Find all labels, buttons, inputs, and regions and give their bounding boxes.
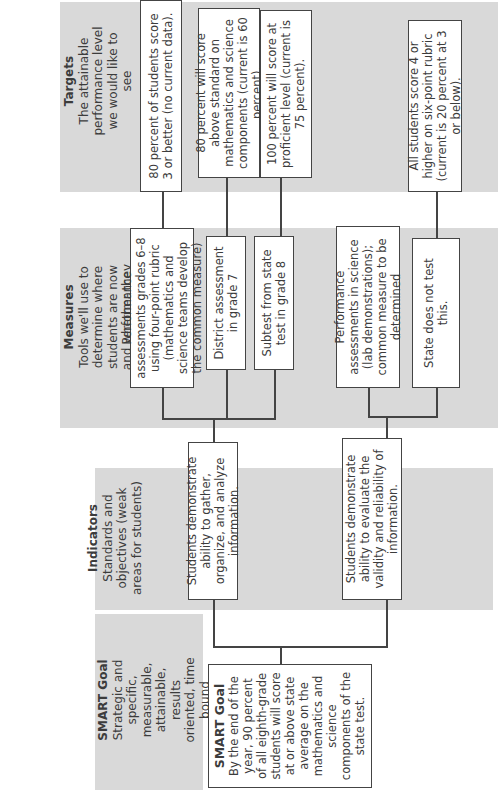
header-targets: Targets The attainable performance level… — [62, 6, 135, 156]
header-smart-goal: SMART Goal Strategic and specific, measu… — [96, 612, 212, 788]
connector-ind2-bus — [368, 417, 436, 419]
connector-m1-t1 — [162, 192, 164, 228]
connector-m5-stub — [436, 388, 438, 418]
connector-ind1-stub — [213, 600, 215, 648]
target-box-4: All students score 4 or higher on six-po… — [408, 20, 462, 192]
measure-text-3: Subtest from state test in grade 8 — [260, 243, 288, 363]
connector-m2-stub — [226, 370, 228, 420]
measure-box-3: Subtest from state test in grade 8 — [254, 236, 294, 370]
smart-goal-box-title: SMART Goal — [213, 684, 227, 769]
smart-goal-box: SMART Goal By the end of the year, 90 pe… — [208, 664, 372, 788]
smart-goal-diagram: SMART Goal Strategic and specific, measu… — [0, 0, 498, 796]
measure-text-4: Performance assessments in science (lab … — [333, 233, 403, 381]
header-indicators-title: Indicators — [86, 468, 101, 608]
header-indicators-desc: Standards and objectives (weak areas for… — [101, 472, 145, 604]
connector-m1-stub — [162, 388, 164, 420]
connector-m3-stub — [274, 370, 276, 420]
connector-goal-bus — [213, 647, 387, 649]
band-indicators — [95, 468, 493, 610]
connector-ind1-bus — [162, 419, 274, 421]
target-text-1: 80 percent of students score 3 or better… — [147, 9, 175, 183]
measure-box-5: State does not test this. — [412, 238, 460, 388]
target-text-4: All students score 4 or higher on six-po… — [407, 27, 463, 185]
header-targets-title: Targets — [62, 6, 77, 156]
measure-text-1: Performance assessments grades 6–8 using… — [120, 235, 204, 381]
indicator-text-1: Students demonstrate ability to gather, … — [185, 449, 241, 593]
indicator-box-2: Students demonstrate ability to evaluate… — [342, 438, 402, 600]
connector-ind2-stub — [386, 600, 388, 648]
connector-m5-t4 — [436, 192, 438, 238]
header-measures-title: Measures — [62, 242, 77, 392]
target-box-1: 80 percent of students score 3 or better… — [140, 0, 182, 192]
connector-m4-stub — [368, 388, 370, 418]
target-box-3: 100 percent will score at proficient lev… — [260, 10, 312, 178]
header-smart-goal-title: SMART Goal — [96, 612, 111, 788]
measure-text-2: District assessment in grade 7 — [212, 243, 240, 363]
measure-box-2: District assessment in grade 7 — [206, 236, 246, 370]
measure-text-5: State does not test this. — [422, 245, 450, 381]
target-text-3: 100 percent will score at proficient lev… — [265, 17, 307, 171]
indicator-box-1: Students demonstrate ability to gather, … — [188, 442, 238, 600]
measure-box-1: Performance assessments grades 6–8 using… — [130, 228, 194, 388]
connector-ind1-stem — [213, 420, 215, 442]
connector-ind2-stem — [386, 418, 388, 438]
smart-goal-box-text: By the end of the year, 90 percent of al… — [227, 671, 367, 781]
header-smart-goal-desc: Strategic and specific, measurable, atta… — [111, 652, 213, 748]
connector-m3-t3 — [280, 178, 282, 236]
header-targets-desc: The attainable performance level we woul… — [77, 22, 135, 140]
measure-box-4: Performance assessments in science (lab … — [336, 226, 400, 388]
target-box-2: 80 percent will score above standard on … — [198, 8, 260, 178]
connector-m2-t2 — [226, 178, 228, 236]
indicator-text-2: Students demonstrate ability to evaluate… — [344, 445, 400, 593]
header-indicators: Indicators Standards and objectives (wea… — [86, 468, 144, 608]
target-text-2: 80 percent will score above standard on … — [194, 15, 264, 171]
connector-goal-stem — [280, 648, 282, 664]
